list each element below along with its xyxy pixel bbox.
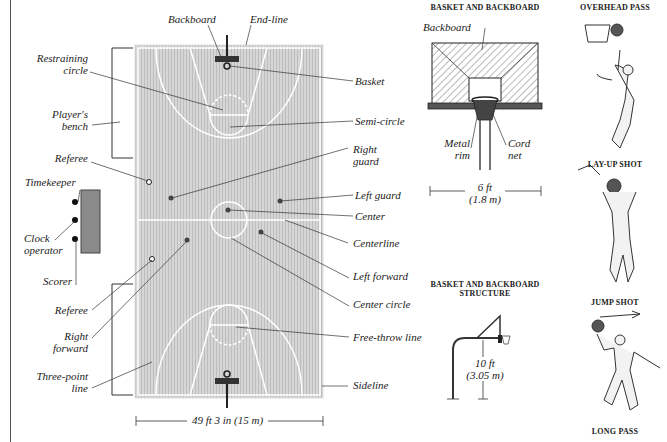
move-title-overhead-pass: OVERHEAD PASS <box>565 3 665 12</box>
backboard-width-ft: 6 ft <box>460 181 510 193</box>
structure-title-line-2: STRUCTURE <box>420 289 550 298</box>
label-left-forward: Left forward <box>353 270 408 282</box>
metal-rim-line-2: rim <box>440 149 470 161</box>
label-backboard: Backboard <box>168 13 216 25</box>
label-restraining-circle: Restraining circle <box>30 52 88 76</box>
label-end-line: End-line <box>250 13 288 25</box>
right-forward-line-1: Right <box>30 330 88 342</box>
label-cord-net: Cord net <box>508 137 530 161</box>
cord-net-line-2: net <box>508 149 530 161</box>
three-point-line-2: line <box>20 382 88 394</box>
right-forward-line-2: forward <box>30 342 88 354</box>
label-semi-circle: Semi-circle <box>355 115 405 127</box>
label-centerline: Centerline <box>353 237 399 249</box>
label-scorer: Scorer <box>43 275 72 287</box>
label-players-bench: Player's bench <box>30 108 88 132</box>
label-referee-bottom: Referee <box>30 304 88 316</box>
right-guard-line-1: Right <box>353 143 379 155</box>
label-right-guard: Right guard <box>353 143 379 167</box>
label-clock-operator: Clock operator <box>24 232 63 256</box>
court-width-dimension: 49 ft 3 in (15 m) <box>187 414 268 426</box>
structure-title: BASKET AND BACKBOARD STRUCTURE <box>420 280 550 298</box>
label-referee-top: Referee <box>30 152 88 164</box>
structure-height-ft: 10 ft <box>460 357 510 369</box>
players-bench-line-2: bench <box>30 120 88 132</box>
restraining-line-2: circle <box>30 64 88 76</box>
backboard-width-dimension: 6 ft (1.8 m) <box>460 181 510 205</box>
clock-operator-line-1: Clock <box>24 232 63 244</box>
label-sideline: Sideline <box>353 379 388 391</box>
three-point-line-1: Three-point <box>20 370 88 382</box>
label-bb-backboard: Backboard <box>423 21 471 33</box>
structure-height-m: (3.05 m) <box>460 369 510 381</box>
label-three-point-line: Three-point line <box>20 370 88 394</box>
move-title-lay-up-shot: LAY-UP SHOT <box>565 160 665 169</box>
label-basket: Basket <box>355 75 384 87</box>
court-diagram <box>0 0 667 442</box>
label-right-forward: Right forward <box>30 330 88 354</box>
label-free-throw-line: Free-throw line <box>353 331 422 343</box>
restraining-line-1: Restraining <box>30 52 88 64</box>
structure-title-line-1: BASKET AND BACKBOARD <box>420 280 550 289</box>
label-left-guard: Left guard <box>355 189 401 201</box>
move-title-jump-shot: JUMP SHOT <box>565 298 665 307</box>
cord-net-line-1: Cord <box>508 137 530 149</box>
backboard-width-m: (1.8 m) <box>460 193 510 205</box>
label-center-circle: Center circle <box>353 298 410 310</box>
metal-rim-line-1: Metal <box>440 137 470 149</box>
basket-backboard-title: BASKET AND BACKBOARD <box>420 3 550 12</box>
right-guard-line-2: guard <box>353 155 379 167</box>
move-title-long-pass: LONG PASS <box>565 427 665 436</box>
structure-height-dimension: 10 ft (3.05 m) <box>460 357 510 381</box>
players-bench-line-1: Player's <box>30 108 88 120</box>
label-center: Center <box>355 210 385 222</box>
clock-operator-line-2: operator <box>24 244 63 256</box>
label-timekeeper: Timekeeper <box>25 176 76 188</box>
label-metal-rim: Metal rim <box>440 137 470 161</box>
